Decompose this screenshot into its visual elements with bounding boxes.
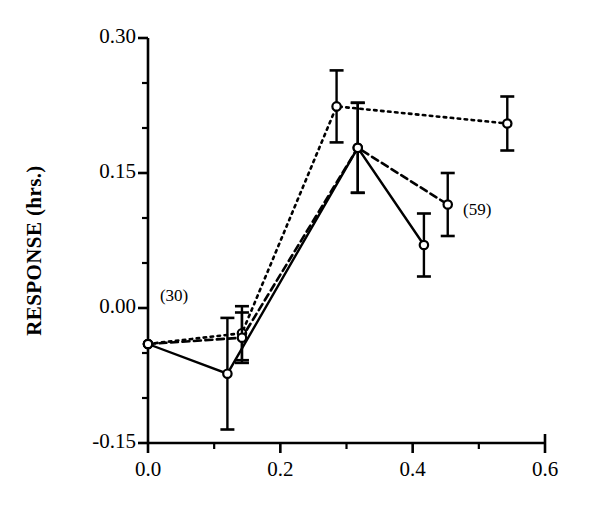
- x-tick-label: 0.4: [373, 457, 453, 482]
- data-point: [354, 144, 362, 152]
- series-group: [144, 70, 514, 429]
- x-tick-label: 0.6: [505, 457, 585, 482]
- series-middle-dashed-series: [144, 103, 455, 363]
- chart-figure: RESPONSE (hrs.) 0.300.150.00-0.150.00.20…: [0, 0, 589, 510]
- data-point: [503, 119, 511, 127]
- data-point: [444, 200, 452, 208]
- data-point: [332, 102, 340, 110]
- series-lower-solid-series: [144, 103, 431, 430]
- chart-annotation: (30): [160, 286, 188, 306]
- x-tick-label: 0.2: [240, 457, 320, 482]
- data-point: [144, 340, 152, 348]
- series-line: [148, 106, 507, 344]
- x-tick-label: 0.0: [108, 457, 188, 482]
- axes-group: [138, 38, 545, 453]
- data-point: [420, 241, 428, 249]
- data-point: [223, 370, 231, 378]
- series-upper-dotted-series: [144, 70, 514, 360]
- y-tick-label: 0.00: [40, 294, 136, 319]
- y-tick-label: -0.15: [40, 429, 136, 454]
- series-line: [148, 148, 448, 344]
- chart-annotation: (59): [463, 200, 491, 220]
- data-point: [238, 334, 246, 342]
- y-tick-label: 0.30: [40, 24, 136, 49]
- y-tick-label: 0.15: [40, 159, 136, 184]
